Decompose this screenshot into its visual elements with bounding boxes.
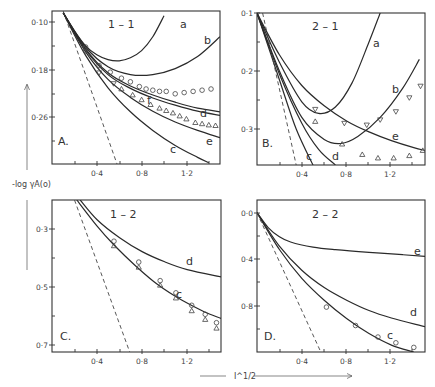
curve-label-b: b [392,83,399,96]
panel-label: A. [58,135,69,148]
x-tick-label: 0·4 [91,169,103,178]
data-point-triangle-up [313,119,318,124]
x-tick-label: 0·4 [91,357,103,366]
data-point-triangle-down [342,121,347,126]
y-tick-label: 0·2 [241,67,253,76]
x-axis-title-group: I^1/2 [200,372,352,381]
y-tick-label: 0·4 [241,255,253,264]
data-point-triangle-up [170,110,175,115]
curve-label-d: d [200,107,207,120]
curve-label-a: a [373,37,380,50]
data-point-triangle-up [391,155,396,160]
data-point-circle [200,88,205,93]
data-point-circle [214,320,219,325]
y-tick-label: 0·5 [36,283,48,292]
curve-label-b: b [204,34,211,47]
x-tick-label: 1·2 [384,357,396,366]
curve-label-d: d [332,150,339,163]
y-tick-label: 0·1 [241,9,253,18]
panel-1-2: 0·30·50·70·40·81·21 – 2C.dc [36,200,221,366]
curve-c [77,200,221,318]
curve-label-d: d [410,306,417,319]
data-point-triangle-down [407,96,412,101]
data-point-circle [151,88,156,93]
panel-1-1: 0·100·180·260·40·81·21 – 1A.abfdec [31,11,220,178]
panel-2-1: 0·10·20·30·40·81·22 – 1B.abedc [241,9,425,180]
curve-limiting-law [75,200,130,352]
curve-limiting-law [63,11,117,164]
data-point-circle [191,89,196,94]
data-point-triangle-up [139,97,144,102]
data-point-triangle-up [193,120,198,125]
x-tick-label: 1·2 [181,357,193,366]
y-axis-title: -log γA(o) [12,180,51,189]
panel-title: 1 – 2 [110,208,137,221]
data-point-triangle-up [407,153,412,158]
x-tick-label: 0·8 [136,169,148,178]
panel-label: C. [60,330,71,343]
plot-frame [52,200,221,352]
data-point-triangle-up [189,308,194,313]
data-point-circle [394,340,399,345]
data-point-triangle-up [199,121,204,126]
data-point-circle [412,345,417,350]
x-tick-label: 0·4 [296,170,308,179]
curve-label-c: c [306,150,312,163]
x-tick-label: 1·2 [384,170,396,179]
data-point-triangle-up [130,92,135,97]
data-point-triangle-up [164,108,169,113]
y-tick-label: 0·18 [31,66,48,75]
data-point-circle [119,76,124,81]
data-point-triangle-up [177,113,182,118]
y-tick-label: 0·3 [241,125,253,134]
data-point-circle [173,92,178,97]
data-point-triangle-down [418,84,423,89]
data-point-circle [136,260,141,265]
curve-label-e: e [206,135,213,148]
curve-d [257,213,425,327]
curve-label-a: a [180,18,187,31]
data-point-triangle-up [360,152,365,157]
data-point-triangle-down [393,110,398,115]
y-tick-label: 0·8 [241,302,253,311]
data-point-triangle-up [214,326,219,331]
data-point-triangle-up [157,106,162,111]
panel-title: 2 – 2 [312,208,339,221]
curve-d [63,13,220,116]
data-point-triangle-up [184,116,189,121]
x-tick-label: 0·4 [296,357,308,366]
data-point-circle [324,305,329,310]
data-point-triangle-down [364,123,369,128]
data-point-circle [137,84,142,89]
data-point-circle [128,80,133,85]
data-point-triangle-up [375,155,380,160]
data-point-triangle-up [203,317,208,322]
y-tick-label: 0·26 [31,113,48,122]
y-tick-label: 0·10 [31,18,48,27]
panel-title: 1 – 1 [108,18,135,31]
curve-label-c: c [387,329,393,342]
plot-frame [257,200,425,352]
y-tick-label: 0·3 [36,225,48,234]
curve-label-c: c [176,288,182,301]
curve-label-c: c [170,143,176,156]
curve-label-e: e [414,245,421,258]
panel-label: B. [262,137,273,150]
curve-c [63,13,209,163]
x-axis-title: I^1/2 [234,372,256,381]
curve-label-d: d [186,255,193,268]
data-point-triangle-up [213,123,218,128]
data-point-triangle-up [206,122,211,127]
data-point-circle [157,89,162,94]
curve-label-e: e [392,130,399,143]
y-tick-label: 0·0 [241,209,253,218]
panel-title: 2 – 1 [312,20,339,33]
data-point-circle [164,89,169,94]
figure: -log γA(o) I^1/2 0·100·180·260·40·81·21 … [0,0,435,387]
x-tick-label: 0·8 [136,357,148,366]
data-point-circle [209,87,214,92]
x-tick-label: 1·2 [181,169,193,178]
x-tick-label: 0·8 [340,357,352,366]
curve-b [63,13,220,76]
curve-label-f: f [147,94,152,107]
